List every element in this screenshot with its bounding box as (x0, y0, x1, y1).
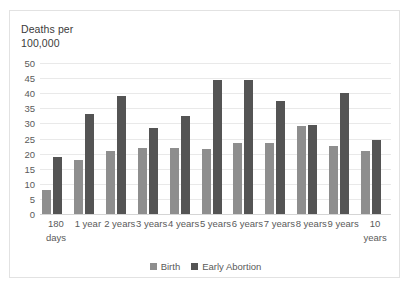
bar (149, 128, 158, 214)
x-axis-tick-label: 7 years (263, 217, 295, 231)
y-axis-tick-label: 45 (24, 73, 35, 84)
bar (233, 143, 242, 214)
bar (117, 96, 126, 214)
bar (138, 148, 147, 214)
bar (181, 116, 190, 214)
bar (329, 146, 338, 214)
bar (244, 80, 253, 214)
gridline (40, 214, 391, 215)
x-axis-tick-label: 9 years (327, 217, 359, 231)
bar-group (263, 63, 295, 214)
bar (340, 93, 349, 214)
legend-label: Birth (161, 261, 181, 272)
bar-group (168, 63, 200, 214)
chart-legend: BirthEarly Abortion (10, 261, 401, 272)
y-axis-tick-label: 0 (30, 209, 35, 220)
y-axis-tick-label: 20 (24, 148, 35, 159)
x-axis-tick-label: 6 years (231, 217, 263, 231)
bar (42, 190, 51, 214)
bar (308, 125, 317, 214)
bar (202, 149, 211, 214)
bar-group (136, 63, 168, 214)
bar (361, 151, 370, 214)
legend-item[interactable]: Early Abortion (191, 261, 261, 272)
bar (74, 160, 83, 214)
x-axis-tick-label: 8 years (295, 217, 327, 231)
bar (170, 148, 179, 214)
bar (85, 114, 94, 214)
y-axis-tick-label: 15 (24, 163, 35, 174)
legend-item[interactable]: Birth (150, 261, 181, 272)
bar-group (72, 63, 104, 214)
x-axis-tick-label: 1 year (72, 217, 104, 231)
legend-swatch-icon (150, 263, 157, 270)
x-axis-tick-label: 2 years (104, 217, 136, 231)
bar (276, 101, 285, 214)
bar-series-container (40, 63, 391, 214)
x-axis-tick-label: 10 years (359, 217, 391, 245)
legend-label: Early Abortion (202, 261, 261, 272)
bar-group (200, 63, 232, 214)
bar (53, 157, 62, 214)
y-axis-tick-label: 40 (24, 88, 35, 99)
bar-group (359, 63, 391, 214)
bar-group (327, 63, 359, 214)
bar (106, 151, 115, 214)
y-axis-tick-label: 35 (24, 103, 35, 114)
legend-swatch-icon (191, 263, 198, 270)
plot-area: 05101520253035404550 (40, 63, 391, 214)
y-axis-title: Deaths per 100,000 (21, 22, 141, 50)
y-axis-tick-label: 50 (24, 58, 35, 69)
bar-group (40, 63, 72, 214)
x-axis-labels: 180 days1 year2 years3 years4 years5 yea… (40, 217, 391, 255)
bar (297, 126, 306, 214)
x-axis-tick-label: 180 days (40, 217, 72, 245)
x-axis-tick-label: 5 years (200, 217, 232, 231)
bar (372, 140, 381, 214)
bar-group (231, 63, 263, 214)
bar (213, 80, 222, 214)
bar-group (295, 63, 327, 214)
y-axis-tick-label: 25 (24, 133, 35, 144)
y-axis-tick-label: 10 (24, 178, 35, 189)
y-axis-tick-label: 5 (30, 193, 35, 204)
bar (265, 143, 274, 214)
x-axis-tick-label: 3 years (136, 217, 168, 231)
bar-group (104, 63, 136, 214)
y-axis-tick-label: 30 (24, 118, 35, 129)
chart-frame: Deaths per 100,000 05101520253035404550 … (9, 10, 400, 278)
x-axis-tick-label: 4 years (168, 217, 200, 231)
